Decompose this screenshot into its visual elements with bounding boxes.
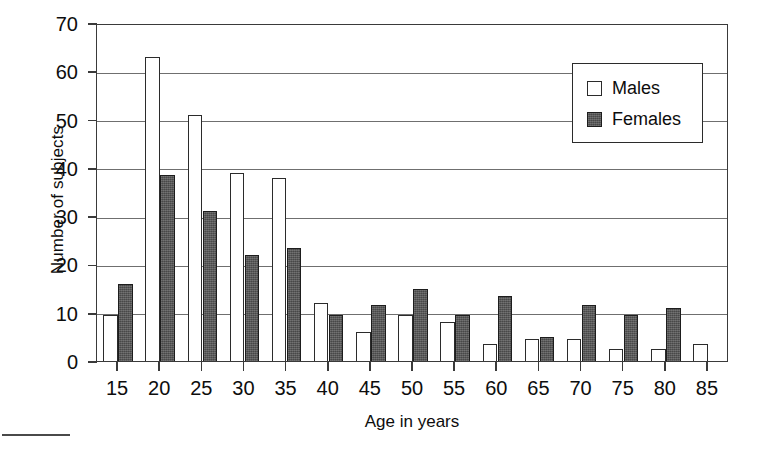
x-tick-mark <box>664 362 666 371</box>
bar-females-25 <box>203 211 218 361</box>
bar-males-65 <box>525 339 540 361</box>
x-tick-mark <box>116 362 118 371</box>
bar-males-75 <box>609 349 624 361</box>
filled-square-swatch-icon <box>587 112 602 127</box>
bar-females-55 <box>455 315 470 361</box>
y-tick-label: 70 <box>36 14 78 34</box>
bar-males-60 <box>483 344 498 361</box>
bar-males-40 <box>314 303 329 361</box>
bar-females-50 <box>413 289 428 361</box>
bar-females-15 <box>118 284 133 361</box>
x-tick-mark <box>327 362 329 371</box>
bar-females-40 <box>329 315 344 361</box>
bar-males-35 <box>272 178 287 361</box>
bar-males-20 <box>145 57 160 361</box>
x-tick-mark <box>411 362 413 371</box>
x-tick-mark <box>580 362 582 371</box>
bar-males-70 <box>567 339 582 361</box>
bar-males-80 <box>651 349 666 361</box>
y-tick-label: 20 <box>36 255 78 275</box>
y-tick-label: 50 <box>36 111 78 131</box>
bar-females-30 <box>245 255 260 361</box>
y-tick-label: 60 <box>36 62 78 82</box>
bar-males-85 <box>693 344 708 361</box>
bar-females-60 <box>498 296 513 361</box>
bar-males-25 <box>188 115 203 361</box>
bar-females-45 <box>371 305 386 361</box>
bar-females-35 <box>287 248 302 361</box>
x-tick-mark <box>243 362 245 371</box>
x-tick-mark <box>538 362 540 371</box>
x-tick-mark <box>158 362 160 371</box>
legend-item-females: Females <box>587 104 702 135</box>
footer-rule <box>2 434 70 436</box>
x-tick-label: 85 <box>677 378 737 398</box>
legend-label-females: Females <box>612 109 681 130</box>
x-tick-mark <box>369 362 371 371</box>
bar-chart-figure: Number of subjects 010203040506070 15202… <box>0 0 764 450</box>
bar-females-70 <box>582 305 597 361</box>
chart-legend: Males Females <box>572 63 703 143</box>
x-tick-mark <box>622 362 624 371</box>
x-tick-mark <box>453 362 455 371</box>
bar-females-80 <box>666 308 681 361</box>
bar-males-50 <box>398 315 413 361</box>
x-axis-title: Age in years <box>96 412 728 432</box>
x-tick-mark <box>201 362 203 371</box>
bar-males-30 <box>230 173 245 361</box>
bar-females-65 <box>540 337 555 361</box>
bar-males-55 <box>440 322 455 361</box>
open-square-swatch-icon <box>587 81 602 96</box>
y-tick-label: 0 <box>36 352 78 372</box>
legend-item-males: Males <box>587 73 702 104</box>
y-tick-label: 40 <box>36 159 78 179</box>
x-tick-mark <box>285 362 287 371</box>
bar-females-75 <box>624 315 639 361</box>
y-tick-label: 10 <box>36 304 78 324</box>
bar-males-45 <box>356 332 371 361</box>
x-tick-mark <box>706 362 708 371</box>
y-tick-label: 30 <box>36 207 78 227</box>
legend-label-males: Males <box>612 78 660 99</box>
x-tick-mark <box>495 362 497 371</box>
bar-females-20 <box>160 175 175 361</box>
bar-males-15 <box>103 315 118 361</box>
